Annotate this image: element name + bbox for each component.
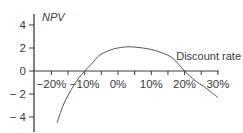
y-axis-title: NPV (42, 11, 66, 23)
y-tick-label: 4 (20, 19, 27, 31)
x-tick-label: −20% (37, 78, 67, 90)
x-tick-label: 10% (140, 78, 163, 90)
x-ticks: −20%−10%0%10%20%30% (37, 71, 230, 90)
x-tick-label: 30% (206, 78, 229, 90)
x-axis-title: Discount rate (176, 50, 241, 62)
npv-chart: 420− 2− 4 NPV −20%−10%0%10%20%30% Discou… (0, 0, 243, 133)
y-tick-label: − 2 (10, 88, 26, 100)
y-tick-label: 0 (20, 65, 26, 77)
y-tick-label: − 4 (10, 111, 27, 123)
y-tick-label: 2 (20, 42, 26, 54)
x-tick-label: 0% (110, 78, 127, 90)
x-tick-label: 20% (173, 78, 196, 90)
x-axis: −20%−10%0%10%20%30% Discount rate (29, 50, 241, 90)
